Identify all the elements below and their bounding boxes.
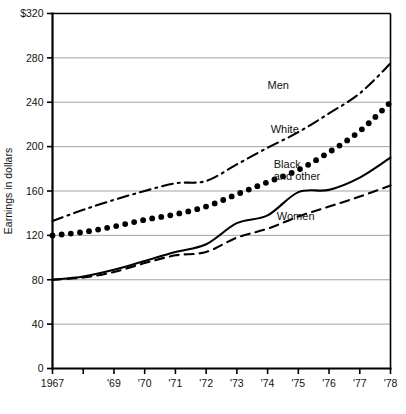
data-marker	[305, 162, 311, 168]
data-marker	[140, 217, 146, 223]
y-tick-label-0: 0	[38, 362, 44, 374]
series-label-men: Men	[268, 79, 289, 91]
data-marker	[149, 216, 155, 222]
data-marker	[263, 180, 269, 186]
y-axis-tick-labels: 04080120160200240280$320	[20, 7, 44, 374]
data-marker	[194, 206, 200, 212]
data-marker	[352, 132, 358, 138]
data-marker	[158, 214, 164, 220]
data-marker	[104, 225, 110, 231]
series-annotations-group: MenWhiteBlackand otherWomen	[268, 79, 321, 222]
x-tick-label-1972: '72	[199, 377, 213, 389]
data-marker	[229, 194, 235, 200]
data-marker	[77, 230, 83, 236]
y-tick-label-80: 80	[32, 274, 44, 286]
data-marker	[337, 143, 343, 149]
y-tick-label-160: 160	[26, 185, 44, 197]
data-marker	[246, 187, 252, 193]
series-men	[53, 63, 391, 221]
data-marker	[50, 232, 56, 238]
series-white	[50, 101, 392, 238]
x-tick-label-1973: '73	[230, 377, 244, 389]
chart-canvas: 04080120160200240280$320 1967'69'70'71'7…	[0, 0, 406, 414]
data-marker	[86, 228, 92, 234]
data-marker	[95, 227, 101, 233]
data-marker	[366, 120, 372, 126]
data-marker	[321, 152, 327, 158]
y-tick-label-40: 40	[32, 318, 44, 330]
data-marker	[373, 114, 379, 120]
data-marker	[386, 101, 392, 107]
x-axis-tick-labels: 1967'69'70'71'72'73'74'75'76'77'78	[41, 377, 398, 389]
data-marker	[237, 190, 243, 196]
x-tick-label-1978: '78	[384, 377, 398, 389]
data-marker	[254, 183, 260, 189]
data-marker	[176, 211, 182, 217]
data-series-group	[50, 63, 392, 279]
data-marker	[167, 212, 173, 218]
y-axis-title: Earnings in dollars	[2, 148, 14, 234]
data-marker	[359, 126, 365, 132]
x-tick-label-1970: '70	[138, 377, 152, 389]
data-marker	[212, 201, 218, 207]
earnings-line-chart: 04080120160200240280$320 1967'69'70'71'7…	[0, 0, 406, 414]
gridlines-group	[53, 14, 391, 325]
data-marker	[185, 209, 191, 215]
data-marker	[122, 221, 128, 227]
x-tick-label-1975: '75	[291, 377, 305, 389]
y-tick-label-240: 240	[26, 96, 44, 108]
x-tick-label-1969: '69	[107, 377, 121, 389]
data-marker	[68, 231, 74, 237]
x-tick-label-1977: '77	[353, 377, 367, 389]
data-marker	[203, 204, 209, 210]
x-tick-label-1971: '71	[169, 377, 183, 389]
y-tick-label-120: 120	[26, 229, 44, 241]
data-marker	[113, 223, 119, 229]
series-label-white: White	[271, 123, 299, 135]
data-marker	[379, 108, 385, 114]
series-black-and-other	[53, 158, 391, 280]
data-marker	[313, 157, 319, 163]
data-marker	[59, 232, 65, 238]
y-tick-label-200: 200	[26, 140, 44, 152]
data-marker	[344, 138, 350, 144]
y-tick-label-280: 280	[26, 52, 44, 64]
x-tick-label-1974: '74	[261, 377, 275, 389]
data-marker	[329, 148, 335, 154]
y-tick-label-320: $320	[20, 7, 44, 19]
x-tick-label-1967: 1967	[41, 377, 65, 389]
series-label-women: Women	[277, 210, 315, 222]
data-marker	[131, 219, 137, 225]
x-tick-label-1976: '76	[322, 377, 336, 389]
data-marker	[220, 197, 226, 203]
